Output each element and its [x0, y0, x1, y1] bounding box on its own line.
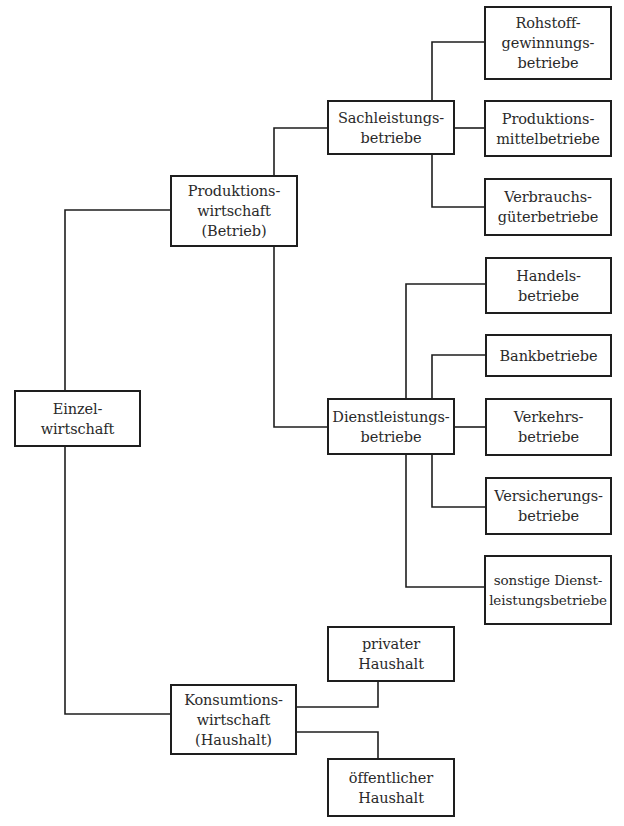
node-label: gewinnungs-	[502, 33, 595, 53]
node-label: betriebe	[518, 427, 579, 447]
node-label: (Haushalt)	[195, 730, 272, 750]
node-oeffentlicher-haushalt: öffentlicher Haushalt	[327, 758, 455, 817]
node-label: wirtschaft	[197, 201, 271, 221]
node-verkehrsbetriebe: Verkehrs- betriebe	[485, 398, 612, 456]
node-privater-haushalt: privater Haushalt	[327, 626, 455, 682]
node-label: Versicherungs-	[494, 486, 603, 506]
node-handelsbetriebe: Handels- betriebe	[485, 257, 612, 314]
node-label: wirtschaft	[197, 710, 271, 730]
node-label: sonstige Dienst-	[494, 570, 602, 590]
node-label: Verkehrs-	[514, 407, 584, 427]
node-label: (Betrieb)	[202, 221, 267, 241]
node-label: betriebe	[361, 427, 422, 447]
node-dienstleistungsbetriebe: Dienstleistungs- betriebe	[327, 398, 455, 455]
node-label: güterbetriebe	[498, 207, 598, 227]
node-rohstoffgewinnungsbetriebe: Rohstoff- gewinnungs- betriebe	[484, 6, 612, 80]
node-label: Konsumtions-	[184, 690, 283, 710]
node-label: Handels-	[516, 266, 581, 286]
node-label: betriebe	[518, 506, 579, 526]
node-label: privater	[362, 634, 420, 654]
node-label: Haushalt	[358, 788, 424, 808]
node-label: betriebe	[518, 286, 579, 306]
node-label: Rohstoff-	[515, 13, 580, 33]
organization-diagram: Einzel- wirtschaft Produktions- wirtscha…	[0, 0, 624, 826]
node-produktionswirtschaft: Produktions- wirtschaft (Betrieb)	[170, 175, 298, 247]
node-label: betriebe	[361, 128, 422, 148]
node-versicherungsbetriebe: Versicherungs- betriebe	[485, 477, 612, 535]
node-label: mittelbetriebe	[496, 129, 600, 149]
node-label: leistungsbetriebe	[489, 590, 607, 610]
node-bankbetriebe: Bankbetriebe	[485, 334, 612, 377]
node-label: Dienstleistungs-	[332, 407, 449, 427]
node-label: wirtschaft	[41, 419, 115, 439]
node-konsumtionswirtschaft: Konsumtions- wirtschaft (Haushalt)	[170, 684, 297, 755]
node-label: Produktions-	[188, 181, 281, 201]
node-label: Einzel-	[53, 399, 103, 419]
node-einzelwirtschaft: Einzel- wirtschaft	[14, 390, 141, 447]
node-label: öffentlicher	[349, 768, 433, 788]
node-sonstige-dienstleistungsbetriebe: sonstige Dienst- leistungsbetriebe	[484, 555, 612, 625]
node-produktionsmittelbetriebe: Produktions- mittelbetriebe	[484, 100, 612, 157]
node-label: betriebe	[518, 53, 579, 73]
node-verbrauchsgueterbetriebe: Verbrauchs- güterbetriebe	[484, 178, 612, 236]
node-sachleistungsbetriebe: Sachleistungs- betriebe	[327, 100, 455, 155]
node-label: Sachleistungs-	[338, 108, 444, 128]
node-label: Haushalt	[358, 654, 424, 674]
node-label: Bankbetriebe	[500, 346, 598, 366]
node-label: Produktions-	[502, 109, 595, 129]
node-label: Verbrauchs-	[504, 187, 592, 207]
